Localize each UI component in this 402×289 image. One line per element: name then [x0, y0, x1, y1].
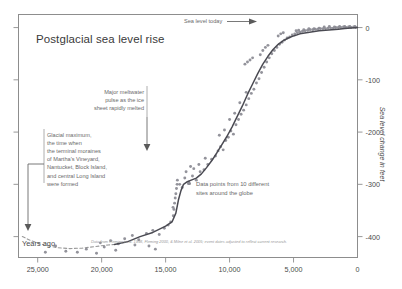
data-point-117: [228, 118, 231, 121]
data-point-103: [297, 29, 300, 32]
data-point-123: [204, 157, 207, 160]
data-point-121: [192, 167, 195, 170]
data-point-46: [242, 109, 245, 112]
data-point-29: [191, 175, 194, 178]
data-point-110: [333, 26, 336, 29]
data-point-50: [252, 88, 255, 91]
data-point-115: [218, 134, 221, 137]
chart-figure: Postglacial sea level rise Sea level tod…: [0, 0, 402, 289]
data-point-4: [103, 246, 106, 249]
data-point-24: [176, 179, 179, 182]
sea-level-curve: [114, 28, 357, 245]
y-tick-label-3: -300: [366, 180, 380, 189]
data-point-23: [172, 206, 175, 209]
annotation-glacial-line-2: the terminal moraines: [47, 147, 109, 155]
x-tick-label-3: 10,000: [219, 265, 241, 274]
data-point-42: [232, 133, 235, 136]
data-point-21: [175, 187, 178, 190]
glacial-arrow-icon: [25, 224, 32, 231]
data-point-107: [318, 27, 321, 30]
data-point-47: [245, 103, 248, 106]
annotation-meltwater-line-0: Major meltwater: [82, 88, 144, 96]
data-point-48: [247, 97, 250, 100]
meltwater-arrow-icon: [144, 144, 151, 151]
data-point-43: [235, 123, 238, 126]
data-point-132: [44, 251, 47, 254]
data-point-109: [328, 25, 331, 28]
data-point-93: [249, 59, 252, 62]
y-tick-label-4: -400: [366, 232, 380, 241]
annotation-glacial-line-3: of Martha's Vineyard,: [47, 155, 109, 163]
data-point-97: [264, 46, 267, 49]
data-point-125: [189, 165, 192, 168]
data-point-52: [258, 77, 261, 80]
data-point-49: [250, 92, 253, 95]
annotation-meltwater-pulse: Major meltwaterpulse as the icesheet rap…: [82, 88, 144, 112]
data-point-122: [197, 163, 200, 166]
data-point-8: [131, 234, 134, 237]
data-point-112: [343, 25, 346, 28]
data-point-51: [255, 82, 258, 85]
data-point-19: [174, 196, 177, 199]
source-note: Data from Fleming et al. 1998, Fleming 2…: [91, 239, 287, 244]
data-point-118: [233, 112, 236, 115]
data-point-102: [295, 29, 298, 32]
data-point-53: [260, 71, 263, 74]
data-point-129: [114, 249, 117, 252]
x-tick-label-2: 15,000: [155, 265, 177, 274]
y-tick-label-0: 0: [366, 23, 370, 32]
data-point-22: [176, 183, 179, 186]
data-point-18: [173, 202, 176, 205]
data-point-98: [267, 44, 270, 47]
x-tick-label-0: 25,000: [27, 265, 49, 274]
data-point-127: [148, 245, 151, 248]
data-point-116: [223, 129, 226, 132]
legend: Data points from 10 differentsites aroun…: [196, 180, 269, 197]
data-point-100: [279, 32, 282, 35]
data-point-124: [185, 170, 188, 173]
data-point-92: [246, 61, 249, 64]
legend-marker-icon: [187, 182, 191, 186]
data-point-96: [261, 49, 264, 52]
data-point-20: [174, 192, 177, 195]
annotation-sea-level-today-label: Sea level today: [184, 18, 222, 24]
data-point-101: [282, 31, 285, 34]
data-point-27: [183, 177, 186, 180]
data-point-126: [154, 248, 157, 251]
data-point-119: [238, 101, 241, 104]
annotation-glacial-line-6: were formed: [47, 180, 109, 188]
x-tick-label-1: 20,000: [91, 265, 113, 274]
data-point-2: [85, 248, 88, 251]
data-point-38: [222, 148, 225, 151]
data-point-108: [323, 26, 326, 29]
data-point-54: [263, 66, 266, 69]
data-point-12: [158, 233, 161, 236]
annotation-meltwater-line-2: sheet rapidly melted: [82, 104, 144, 112]
data-point-25: [178, 183, 181, 186]
y-tick-label-2: -200: [366, 128, 380, 137]
annotation-sea-level-today: Sea level today: [184, 18, 257, 25]
arrow-right-icon: [227, 18, 257, 25]
annotation-glacial-maximum: Glacial maximum,the time whenthe termina…: [47, 131, 109, 188]
data-point-1: [76, 251, 79, 254]
x-tick-label-4: 5,000: [285, 265, 303, 274]
data-point-31: [199, 170, 202, 173]
legend-line-0: Data points from 10 different: [196, 180, 269, 189]
annotation-glacial-line-0: Glacial maximum,: [47, 131, 109, 139]
data-point-44: [237, 118, 240, 121]
x-axis-title: Years ago: [22, 239, 55, 248]
legend-line-1: sites around the globe: [196, 189, 269, 198]
data-point-105: [307, 27, 310, 30]
x-tick-label-5: 0: [356, 265, 360, 274]
data-point-45: [240, 113, 243, 116]
data-point-99: [277, 34, 280, 37]
annotation-glacial-line-1: the time when: [47, 139, 109, 147]
data-point-0: [64, 250, 67, 253]
data-point-104: [302, 28, 305, 31]
data-point-3: [95, 252, 98, 255]
y-tick-label-1: -100: [366, 75, 380, 84]
page-title: Postglacial sea level rise: [36, 33, 165, 45]
annotation-meltwater-line-1: pulse as the ice: [82, 96, 144, 104]
y-axis-title: Sea level change in feet: [379, 107, 386, 182]
data-point-106: [313, 27, 316, 30]
